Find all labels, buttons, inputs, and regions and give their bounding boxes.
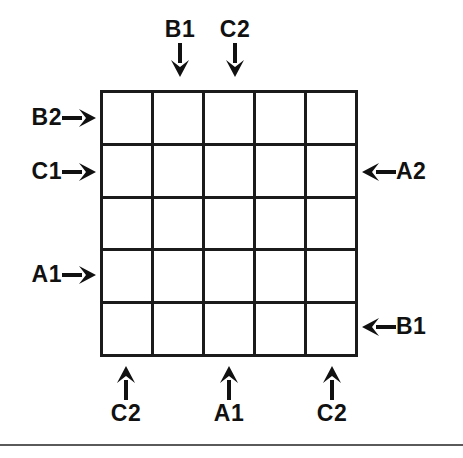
left-label-row-4: A1 [8, 263, 96, 286]
grid-cell[interactable] [103, 251, 154, 304]
figure-canvas: B1 C2 B2 C1 [0, 0, 463, 458]
arrow-up-icon [321, 366, 343, 400]
left-label-row-1: B2 [8, 106, 96, 129]
grid-cell[interactable] [205, 251, 256, 304]
arrow-up-icon [218, 366, 240, 400]
grid-cell[interactable] [103, 93, 154, 146]
top-label-column-3-text: C2 [220, 18, 250, 41]
grid-cell[interactable] [103, 199, 154, 252]
grid-cell[interactable] [307, 251, 358, 304]
cell-grid [100, 90, 358, 357]
grid-cell[interactable] [154, 251, 205, 304]
bottom-label-column-5: C2 [306, 366, 358, 425]
grid-cell[interactable] [154, 304, 205, 357]
arrow-up-icon [115, 366, 137, 400]
grid-cell[interactable] [205, 93, 256, 146]
top-label-column-3: C2 [205, 18, 265, 77]
arrow-down-icon [169, 43, 191, 77]
bottom-divider [0, 444, 463, 446]
bottom-label-column-5-text: C2 [317, 402, 347, 425]
bottom-label-column-3-text: A1 [214, 402, 244, 425]
grid-cell[interactable] [154, 146, 205, 199]
grid-cell[interactable] [256, 304, 307, 357]
bottom-label-column-3: A1 [203, 366, 255, 425]
grid-cell[interactable] [103, 304, 154, 357]
grid-cell[interactable] [205, 146, 256, 199]
grid-cell[interactable] [205, 304, 256, 357]
grid-cell[interactable] [307, 199, 358, 252]
grid-cell[interactable] [256, 146, 307, 199]
top-label-column-2-text: B1 [165, 18, 195, 41]
grid-cell[interactable] [307, 146, 358, 199]
left-label-row-4-text: A1 [32, 263, 62, 286]
right-label-row-5-text: B1 [396, 315, 426, 338]
grid-cell[interactable] [256, 93, 307, 146]
grid-cell[interactable] [154, 199, 205, 252]
arrow-left-icon [362, 316, 396, 338]
grid-cell[interactable] [307, 93, 358, 146]
grid-cell[interactable] [307, 304, 358, 357]
bottom-label-column-1: C2 [100, 366, 152, 425]
grid-cell[interactable] [205, 199, 256, 252]
left-label-row-2-text: C1 [32, 160, 62, 183]
arrow-down-icon [224, 43, 246, 77]
right-label-row-2-text: A2 [396, 160, 426, 183]
grid-cell[interactable] [256, 199, 307, 252]
right-label-row-5: B1 [362, 315, 457, 338]
left-label-row-1-text: B2 [32, 106, 62, 129]
grid-cell[interactable] [103, 146, 154, 199]
arrow-left-icon [362, 161, 396, 183]
top-label-column-2: B1 [150, 18, 210, 77]
arrow-right-icon [62, 264, 96, 286]
arrow-right-icon [62, 161, 96, 183]
bottom-label-column-1-text: C2 [111, 402, 141, 425]
left-label-row-2: C1 [8, 160, 96, 183]
grid-cell[interactable] [256, 251, 307, 304]
arrow-right-icon [62, 107, 96, 129]
grid-cell[interactable] [154, 93, 205, 146]
right-label-row-2: A2 [362, 160, 457, 183]
